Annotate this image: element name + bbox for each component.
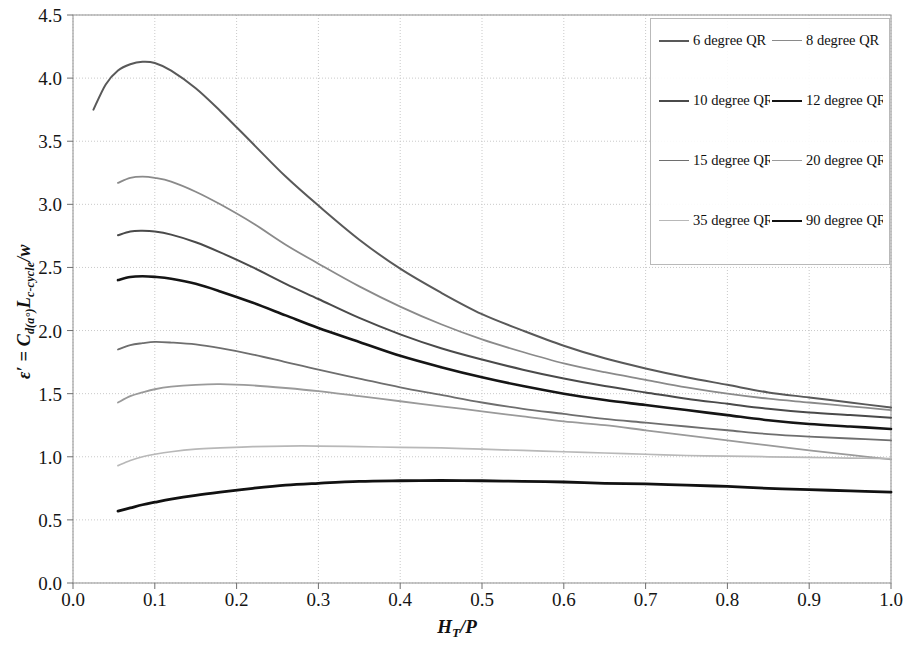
y-tick-label: 3.5 [16, 132, 62, 151]
legend-label: 90 degree QR [806, 213, 883, 228]
x-tick-label: 0.6 [534, 590, 594, 609]
legend-swatch [659, 40, 689, 42]
x-axis-title-main: H [437, 616, 452, 637]
legend-row: 15 degree QR20 degree QR [657, 153, 883, 213]
legend-swatch [772, 220, 802, 222]
y-tick-label: 4.0 [16, 69, 62, 88]
legend-item-90-degree-qr[interactable]: 90 degree QR [770, 213, 883, 228]
x-tick-label: 0.5 [452, 590, 512, 609]
y-axis-title-sub1: d(a°) [23, 308, 37, 334]
legend-swatch [659, 100, 689, 102]
legend-item-6-degree-qr[interactable]: 6 degree QR [657, 33, 770, 48]
x-tick-label: 0.9 [779, 590, 839, 609]
legend-item-8-degree-qr[interactable]: 8 degree QR [770, 33, 883, 48]
x-axis-title-sub: T [452, 625, 460, 640]
y-axis-title-main: ε′ = C [14, 334, 34, 379]
y-tick-label: 1.0 [16, 448, 62, 467]
legend-label: 6 degree QR [693, 33, 766, 48]
legend-swatch [772, 100, 802, 102]
legend-item-15-degree-qr[interactable]: 15 degree QR [657, 153, 770, 168]
legend-swatch [659, 160, 689, 161]
legend-row: 10 degree QR12 degree QR [657, 93, 883, 153]
legend-label: 10 degree QR [693, 93, 770, 108]
series-line-35-degree-qr [118, 446, 891, 466]
x-tick-label: 1.0 [861, 590, 914, 609]
legend-row: 6 degree QR8 degree QR [657, 33, 883, 93]
x-tick-label: 0.2 [207, 590, 267, 609]
x-axis-tick-labels: 0.00.10.20.30.40.50.60.70.80.91.0 [0, 590, 914, 616]
x-tick-label: 0.8 [697, 590, 757, 609]
y-axis-title-sub2: c-cycle [23, 262, 37, 297]
y-axis-title: ε′ = Cd(a°)Lc-cycle/w [14, 182, 37, 442]
legend-item-20-degree-qr[interactable]: 20 degree QR [770, 153, 883, 168]
legend-row: 35 degree QR90 degree QR [657, 213, 883, 273]
x-tick-label: 0.4 [370, 590, 430, 609]
legend-label: 35 degree QR [693, 213, 770, 228]
y-axis-title-end: /w [14, 244, 34, 261]
chart-figure: 0.00.51.01.52.02.53.03.54.04.5 0.00.10.2… [0, 0, 914, 649]
legend-item-10-degree-qr[interactable]: 10 degree QR [657, 93, 770, 108]
legend-item-12-degree-qr[interactable]: 12 degree QR [770, 93, 883, 108]
chart-legend: 6 degree QR8 degree QR10 degree QR12 deg… [650, 18, 890, 265]
x-axis-title-end: /P [460, 616, 477, 637]
y-axis-title-mid: L [14, 297, 34, 308]
series-line-15-degree-qr [118, 342, 891, 440]
x-axis-title: HT/P [0, 616, 914, 641]
legend-swatch [772, 160, 802, 161]
legend-label: 8 degree QR [806, 33, 879, 48]
y-tick-label: 4.5 [16, 6, 62, 25]
x-tick-label: 0.7 [616, 590, 676, 609]
y-tick-label: 0.5 [16, 511, 62, 530]
legend-swatch [659, 220, 689, 221]
series-line-90-degree-qr [118, 481, 891, 512]
legend-item-35-degree-qr[interactable]: 35 degree QR [657, 213, 770, 228]
legend-swatch [772, 40, 802, 41]
x-tick-label: 0.3 [288, 590, 348, 609]
legend-label: 12 degree QR [806, 93, 883, 108]
legend-label: 15 degree QR [693, 153, 770, 168]
x-tick-label: 0.1 [125, 590, 185, 609]
x-tick-label: 0.0 [43, 590, 103, 609]
legend-label: 20 degree QR [806, 153, 883, 168]
